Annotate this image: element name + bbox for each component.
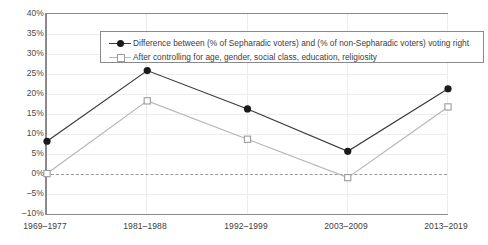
y-axis-tick-label: 40% bbox=[4, 9, 44, 18]
y-axis-tick-label: –10% bbox=[4, 209, 44, 218]
y-axis: 40% 35% 30% 25% 20% 15% 10% 5% 0% –5% –1… bbox=[0, 0, 44, 245]
legend-item-difference: Difference between (% of Sepharadic vote… bbox=[107, 37, 477, 50]
x-axis-tick-label: 1981–1988 bbox=[100, 221, 190, 231]
legend-label-controlled: After controlling for age, gender, socia… bbox=[133, 52, 377, 63]
open-square-marker-icon bbox=[107, 52, 133, 64]
data-point bbox=[144, 67, 151, 74]
y-axis-tick-label: 0% bbox=[4, 169, 44, 178]
legend-item-controlled: After controlling for age, gender, socia… bbox=[107, 51, 477, 64]
data-point bbox=[44, 170, 50, 176]
x-axis-tick-label: 2003–2009 bbox=[301, 221, 391, 231]
data-point bbox=[345, 175, 351, 181]
data-point bbox=[43, 138, 50, 145]
y-axis-tick-label: 30% bbox=[4, 49, 44, 58]
y-axis-tick-label: 35% bbox=[4, 29, 44, 38]
x-axis-tick-label: 1992–1999 bbox=[201, 221, 291, 231]
filled-circle-marker-icon bbox=[107, 38, 133, 50]
data-point bbox=[344, 148, 351, 155]
legend-label-difference: Difference between (% of Sepharadic vote… bbox=[133, 38, 469, 49]
x-axis-tick-label: 2013–2019 bbox=[401, 221, 488, 231]
data-point bbox=[144, 98, 150, 104]
y-axis-tick-label: 20% bbox=[4, 89, 44, 98]
legend: Difference between (% of Sepharadic vote… bbox=[100, 31, 484, 63]
y-axis-tick-label: 10% bbox=[4, 129, 44, 138]
data-point bbox=[244, 136, 250, 142]
y-axis-tick-label: 25% bbox=[4, 69, 44, 78]
data-point bbox=[244, 105, 251, 112]
data-point bbox=[444, 85, 451, 92]
y-axis-tick-label: 5% bbox=[4, 149, 44, 158]
plot-area: Difference between (% of Sepharadic vote… bbox=[45, 13, 448, 215]
x-axis-tick-label: 1969–1977 bbox=[0, 221, 90, 231]
data-point bbox=[445, 104, 451, 110]
y-axis-tick-label: –5% bbox=[4, 189, 44, 198]
y-axis-tick-label: 15% bbox=[4, 109, 44, 118]
